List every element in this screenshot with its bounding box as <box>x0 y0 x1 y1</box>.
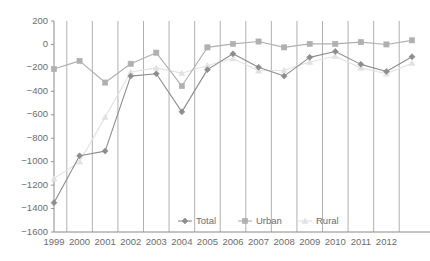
x-axis-tick-label: 2008 <box>274 236 295 247</box>
line-chart: 2000−200−400−600−800−1000−1200−1400−1600… <box>0 0 430 261</box>
y-axis-tick-label: 200 <box>32 15 48 26</box>
y-axis-tick-label: −600 <box>27 108 48 119</box>
data-point-urban <box>179 83 184 88</box>
data-point-urban <box>103 80 108 85</box>
data-point-urban <box>205 45 210 50</box>
x-axis-tick-label: 2010 <box>325 236 346 247</box>
x-axis-tick-label: 2007 <box>248 236 269 247</box>
legend-label-total: Total <box>196 215 216 226</box>
data-point-urban <box>333 41 338 46</box>
data-point-urban <box>256 39 261 44</box>
x-axis-tick-label: 2000 <box>69 236 90 247</box>
x-axis-tick-label: 2001 <box>95 236 116 247</box>
y-axis-tick-label: −800 <box>27 132 48 143</box>
x-axis-tick-label: 1999 <box>43 236 64 247</box>
data-point-urban <box>282 45 287 50</box>
x-axis-tick-label: 2009 <box>299 236 320 247</box>
chart-canvas: 2000−200−400−600−800−1000−1200−1400−1600… <box>0 0 430 261</box>
data-point-urban <box>230 41 235 46</box>
legend-label-urban: Urban <box>256 215 282 226</box>
data-point-urban <box>358 40 363 45</box>
legend-marker-urban <box>242 218 247 223</box>
data-point-urban <box>307 41 312 46</box>
y-axis-tick-label: −1000 <box>21 155 48 166</box>
y-axis-tick-label: −400 <box>27 85 48 96</box>
x-axis-tick-label: 2012 <box>376 236 397 247</box>
data-point-urban <box>409 38 414 43</box>
y-axis-tick-label: −1200 <box>21 179 48 190</box>
x-axis-tick-label: 2011 <box>351 236 371 247</box>
data-point-urban <box>51 66 56 71</box>
y-axis-tick-label: −1400 <box>21 202 48 213</box>
y-axis-tick-label: −1600 <box>21 226 48 237</box>
y-axis-tick-label: 0 <box>43 38 48 49</box>
data-point-urban <box>384 42 389 47</box>
x-axis-tick-label: 2006 <box>222 236 243 247</box>
x-axis-tick-label: 2005 <box>197 236 218 247</box>
data-point-urban <box>128 61 133 66</box>
x-axis-tick-label: 2003 <box>146 236 167 247</box>
legend-label-rural: Rural <box>316 215 339 226</box>
data-point-urban <box>154 50 159 55</box>
x-axis-tick-label: 2004 <box>171 236 192 247</box>
y-axis-tick-label: −200 <box>27 61 48 72</box>
data-point-urban <box>77 58 82 63</box>
x-axis-tick-label: 2002 <box>120 236 141 247</box>
